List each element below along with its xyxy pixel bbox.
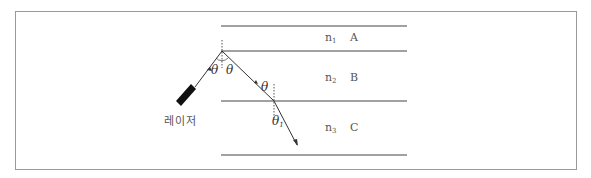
laser-label: 레이저 bbox=[164, 112, 197, 128]
layer-c-name: C bbox=[350, 121, 358, 134]
optics-diagram bbox=[0, 0, 591, 178]
arrow-head-icon bbox=[293, 139, 298, 146]
layer-b-name: B bbox=[350, 71, 358, 84]
angle-label-refracted: θ1 bbox=[272, 114, 284, 128]
layer-b-index: n2 bbox=[325, 71, 337, 84]
index-subscript: 2 bbox=[332, 77, 336, 85]
laser-icon bbox=[176, 84, 196, 106]
index-subscript: 3 bbox=[332, 127, 336, 135]
angle-label-incident: θ bbox=[211, 63, 218, 77]
index-subscript: 1 bbox=[332, 37, 336, 45]
angle-label-reflected: θ bbox=[226, 63, 233, 77]
layer-a-index: n1 bbox=[325, 31, 337, 44]
angle-label-lower-incident: θ bbox=[261, 80, 268, 94]
layer-a-name: A bbox=[350, 31, 358, 44]
layer-c-index: n3 bbox=[325, 121, 337, 134]
theta-subscript: 1 bbox=[279, 121, 283, 129]
